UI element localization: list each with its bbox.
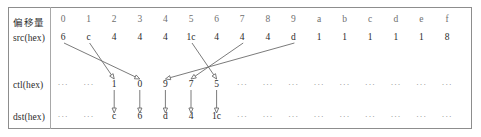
cell-ctl-f: ··· [434, 79, 460, 89]
cell-ctl-7: ··· [229, 79, 255, 89]
cell-dst-f: ··· [434, 111, 460, 121]
cell-offset-5: 5 [178, 14, 204, 24]
cell-src-c: 1 [357, 32, 383, 42]
cell-offset-1: 1 [76, 14, 102, 24]
cell-offset-7: 7 [229, 14, 255, 24]
cell-dst-8: ··· [255, 111, 281, 121]
cell-offset-4: 4 [152, 14, 178, 24]
cell-dst-7: ··· [229, 111, 255, 121]
cell-ctl-b: ··· [332, 79, 358, 89]
cell-src-0: 6 [50, 32, 76, 42]
cell-src-e: 1 [408, 32, 434, 42]
cell-ctl-c: ··· [357, 79, 383, 89]
cell-offset-c: c [357, 14, 383, 24]
cell-offset-9: 9 [280, 14, 306, 24]
cell-src-9: d [280, 32, 306, 42]
cell-ctl-2: 1 [101, 79, 127, 89]
cell-src-1: c [76, 32, 102, 42]
cell-src-d: 1 [383, 32, 409, 42]
cell-ctl-9: ··· [280, 79, 306, 89]
cell-src-8: 4 [255, 32, 281, 42]
cell-offset-0: 0 [50, 14, 76, 24]
cell-ctl-5: 7 [178, 79, 204, 89]
cell-dst-3: 6 [127, 111, 153, 121]
cell-src-3: 4 [127, 32, 153, 42]
cell-ctl-d: ··· [383, 79, 409, 89]
cell-dst-9: ··· [280, 111, 306, 121]
cell-ctl-4: 9 [152, 79, 178, 89]
cell-offset-2: 2 [101, 14, 127, 24]
cell-ctl-3: 0 [127, 79, 153, 89]
cell-offset-a: a [306, 14, 332, 24]
cell-dst-1: ··· [76, 111, 102, 121]
cell-dst-0: ··· [50, 111, 76, 121]
cell-src-7: 4 [229, 32, 255, 42]
cell-offset-e: e [408, 14, 434, 24]
cell-src-5: 1c [178, 32, 204, 42]
cell-ctl-6: 5 [204, 79, 230, 89]
cell-dst-b: ··· [332, 111, 358, 121]
cell-dst-5: 4 [178, 111, 204, 121]
cell-offset-b: b [332, 14, 358, 24]
cell-ctl-e: ··· [408, 79, 434, 89]
cell-dst-2: c [101, 111, 127, 121]
cell-src-a: 1 [306, 32, 332, 42]
cell-src-4: 4 [152, 32, 178, 42]
cell-dst-d: ··· [383, 111, 409, 121]
cell-ctl-8: ··· [255, 79, 281, 89]
cell-offset-8: 8 [255, 14, 281, 24]
cell-dst-a: ··· [306, 111, 332, 121]
cell-dst-e: ··· [408, 111, 434, 121]
cell-offset-3: 3 [127, 14, 153, 24]
cell-ctl-1: ··· [76, 79, 102, 89]
cell-dst-4: d [152, 111, 178, 121]
cell-src-f: 8 [434, 32, 460, 42]
cell-ctl-0: ··· [50, 79, 76, 89]
cell-ctl-a: ··· [306, 79, 332, 89]
cell-offset-f: f [434, 14, 460, 24]
cell-src-b: 1 [332, 32, 358, 42]
cell-dst-c: ··· [357, 111, 383, 121]
cell-src-6: 4 [204, 32, 230, 42]
cell-offset-d: d [383, 14, 409, 24]
cell-dst-6: 1c [204, 111, 230, 121]
offset-mapping-figure: 偏移量 src(hex) ctl(hex) dst(hex) 012345678… [0, 0, 481, 137]
cell-src-2: 4 [101, 32, 127, 42]
cell-offset-6: 6 [204, 14, 230, 24]
